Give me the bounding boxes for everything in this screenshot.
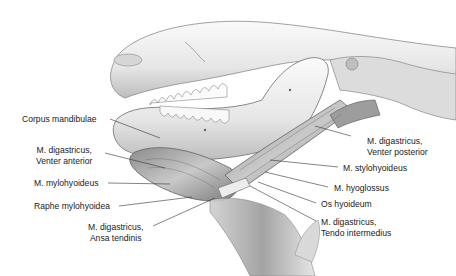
label-stylohyoideus: M. stylohyoideus — [343, 163, 407, 174]
label-raphe-mylohyoidea: Raphe mylohyoidea — [34, 201, 110, 212]
anatomy-figure: Corpus mandibulae M. digastricus, Venter… — [0, 0, 456, 276]
label-os-hyoideum: Os hyoideum — [321, 199, 372, 210]
label-hyoglossus: M. hyoglossus — [334, 183, 389, 194]
label-digastricus-venter-anterior: M. digastricus, Venter anterior — [36, 145, 92, 166]
neck-muscles — [210, 198, 320, 276]
label-corpus-mandibulae: Corpus mandibulae — [22, 114, 97, 125]
label-digastricus-tendo-intermedius: M. digastricus, Tendo intermedius — [321, 217, 391, 238]
label-digastricus-venter-posterior: M. digastricus, Venter posterior — [367, 136, 428, 157]
label-digastricus-ansa-tendinis: M. digastricus, Ansa tendinis — [88, 222, 143, 243]
label-mylohyoideus: M. mylohyoideus — [34, 178, 98, 189]
